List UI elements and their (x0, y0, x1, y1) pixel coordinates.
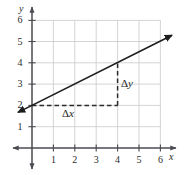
x-tick-label-2: 2 (69, 155, 81, 165)
y-tick-label-4: 4 (14, 58, 26, 68)
x-tick-label-4: 4 (112, 155, 124, 165)
delta-y-variable: y (128, 77, 133, 89)
slope-graph-figure: y x 6 5 4 3 2 1 1 2 3 4 5 6 Δy Δx (0, 0, 189, 175)
y-tick-label-6: 6 (14, 15, 26, 25)
y-tick-label-5: 5 (14, 37, 26, 47)
y-tick-label-3: 3 (14, 79, 26, 89)
plot-line (18, 35, 172, 112)
y-tick-label-2: 2 (14, 100, 26, 110)
x-tick-label-3: 3 (90, 155, 102, 165)
x-tick-label-5: 5 (133, 155, 145, 165)
delta-x-label: Δx (62, 108, 74, 119)
y-tick-label-1: 1 (14, 122, 26, 132)
y-axis-label: y (19, 4, 23, 14)
x-axis-label: x (169, 152, 173, 162)
delta-x-variable: x (69, 107, 74, 119)
x-tick-label-6: 6 (154, 155, 166, 165)
x-tick-label-1: 1 (47, 155, 59, 165)
delta-y-label: Δy (121, 78, 133, 89)
coordinate-plane (0, 0, 189, 175)
